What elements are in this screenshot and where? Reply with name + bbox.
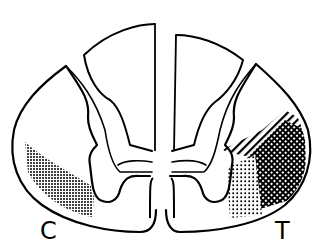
right-gray-matter — [172, 64, 256, 172]
label-left-side: C — [40, 219, 57, 243]
spinal-cord-diagram — [0, 0, 319, 250]
spinal-cord-drawing — [0, 0, 319, 250]
right-shaded-regions — [222, 110, 306, 218]
right-dorsal-column — [172, 35, 243, 151]
label-right-side: T — [275, 219, 290, 243]
left-gray-matter — [66, 66, 152, 172]
left-dorsal-column — [84, 24, 155, 151]
left-stipple-region — [25, 142, 95, 217]
